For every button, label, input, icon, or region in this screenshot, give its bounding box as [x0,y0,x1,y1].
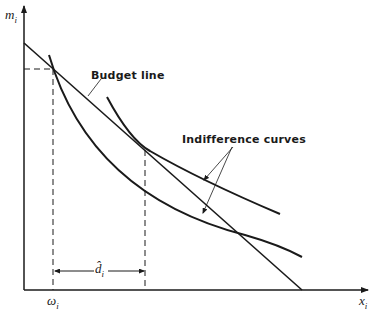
indifference-curves-leaders [203,147,233,213]
x-axis-label: xi [359,294,367,311]
indifference-curve-lower [49,55,302,257]
endowment-guides [24,69,53,290]
y-axis-label: mi [5,8,17,25]
net-demand-label: d̂i [95,262,104,279]
indifference-curve-upper [107,97,280,214]
endowment-label: ωi [47,294,59,311]
budget-line-label: Budget line [91,70,165,81]
diagram-figure: mi xi ωi d̂i Budget line Indifference cu… [0,0,379,314]
indifference-curves-label: Indifference curves [182,134,306,145]
diagram-canvas [0,0,379,314]
